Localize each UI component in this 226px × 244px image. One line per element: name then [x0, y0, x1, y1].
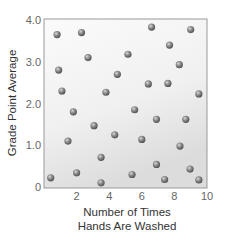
y-axis-ticks: 01.02.03.04.0: [26, 14, 41, 193]
data-point: [114, 71, 121, 78]
data-point: [102, 89, 109, 96]
plot-area: [44, 19, 207, 188]
data-point: [73, 169, 80, 176]
data-point: [78, 29, 85, 36]
x-tick-label: 8: [171, 190, 177, 202]
y-tick-label: 4.0: [26, 14, 41, 26]
data-point: [64, 137, 71, 144]
x-axis-ticks: 246810: [74, 190, 214, 202]
x-tick-label: 4: [106, 190, 112, 202]
x-axis-title-line2: Hands Are Washed: [78, 220, 177, 232]
data-point: [164, 80, 171, 87]
y-tick-label: 0: [35, 181, 41, 193]
data-point: [176, 61, 183, 68]
data-point: [111, 131, 118, 138]
data-point: [153, 161, 160, 168]
x-tick-label: 10: [201, 190, 213, 202]
data-point: [124, 51, 131, 58]
data-point: [195, 176, 202, 183]
data-point: [195, 90, 202, 97]
data-point: [97, 154, 104, 161]
data-point: [84, 54, 91, 61]
data-point: [90, 122, 97, 129]
data-point: [53, 31, 60, 38]
data-point: [186, 165, 193, 172]
y-axis-title: Grade Point Average: [6, 50, 18, 157]
data-point: [138, 136, 145, 143]
x-tick-label: 6: [139, 190, 145, 202]
y-tick-label: 3.0: [26, 56, 41, 68]
data-point: [148, 23, 155, 30]
data-point: [176, 142, 183, 149]
data-point: [97, 179, 104, 186]
data-point: [166, 41, 173, 48]
data-point: [131, 106, 138, 113]
x-tick-label: 2: [74, 190, 80, 202]
data-point: [153, 116, 160, 123]
data-point: [70, 108, 77, 115]
scatter-chart: 246810 01.02.03.04.0 Grade Point Average…: [0, 0, 226, 244]
data-point: [187, 26, 194, 33]
data-point: [182, 116, 189, 123]
data-point: [145, 80, 152, 87]
data-point: [161, 176, 168, 183]
y-tick-label: 1.0: [26, 139, 41, 151]
data-point: [58, 87, 65, 94]
x-axis-title-line1: Number of Times: [83, 206, 171, 218]
y-tick-label: 2.0: [26, 98, 41, 110]
data-point: [128, 171, 135, 178]
data-point: [47, 174, 54, 181]
data-point: [55, 67, 62, 74]
